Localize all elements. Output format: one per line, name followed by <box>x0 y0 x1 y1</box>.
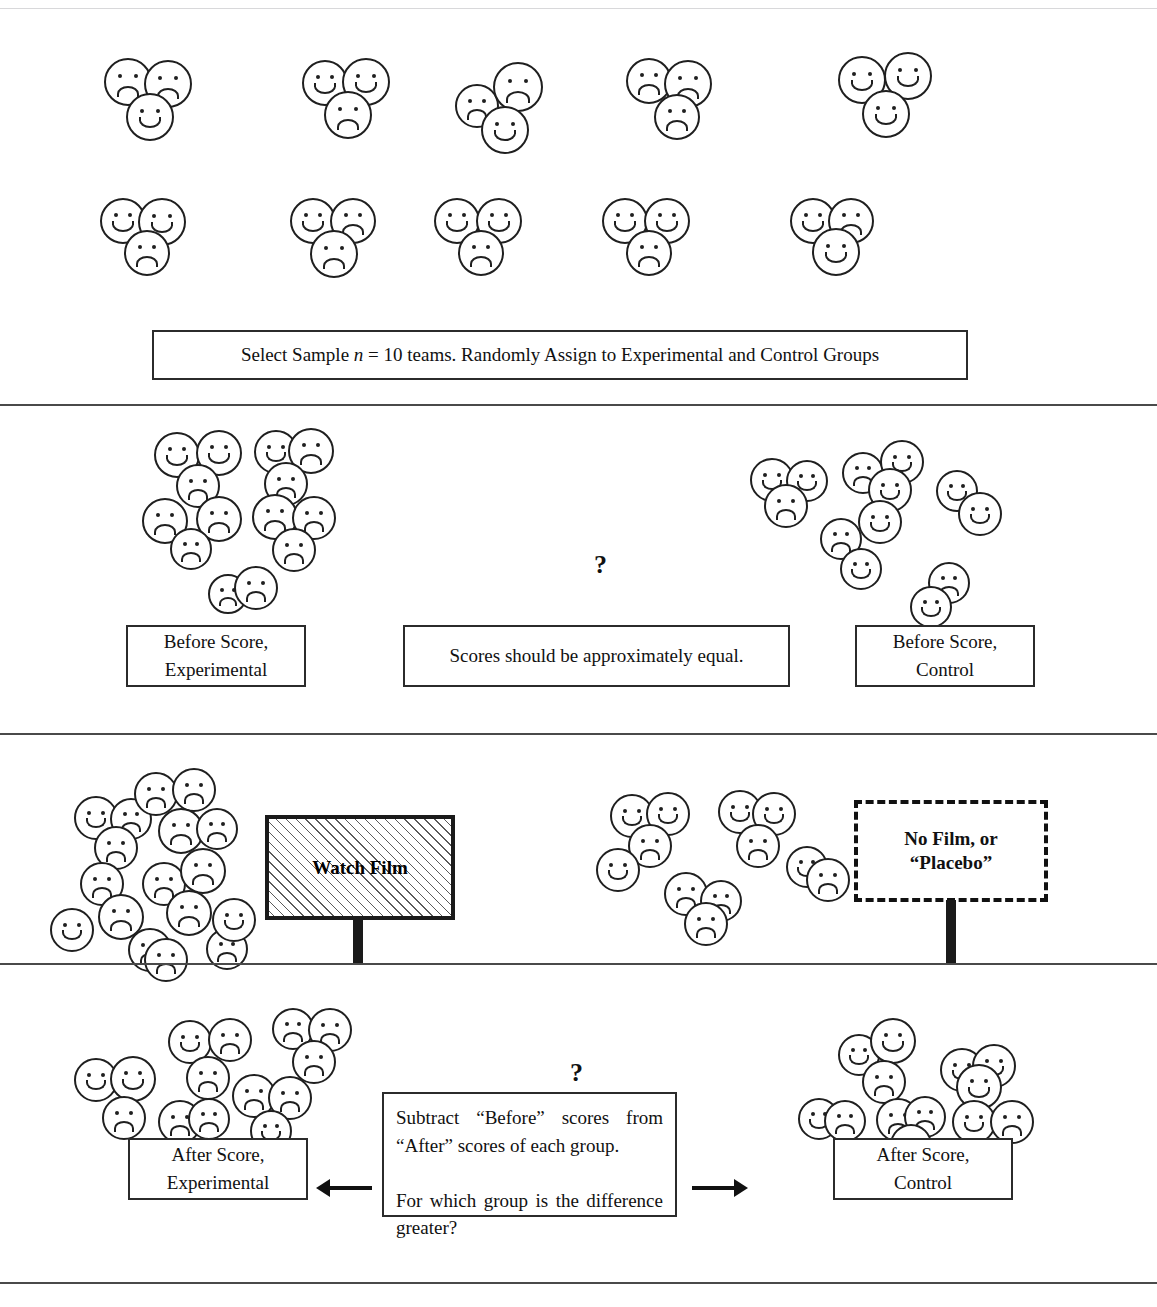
face-eye-right <box>170 513 174 517</box>
face-eye-left <box>183 542 187 546</box>
face-mouth <box>284 553 305 563</box>
face-eye-right <box>935 600 939 604</box>
face-mouth <box>875 114 898 125</box>
before-score-control-label: Before Score, Control <box>893 628 997 683</box>
face-mouth <box>849 1055 869 1065</box>
face-eye-right <box>129 1111 133 1115</box>
face-eye-right <box>156 109 160 113</box>
face-mouth <box>112 221 134 232</box>
face-eye-right <box>898 1033 902 1037</box>
arrow-left-icon <box>316 1179 330 1197</box>
happy-face-icon <box>858 500 902 544</box>
face-eye-right <box>186 823 190 827</box>
face-eye-right <box>77 923 81 927</box>
face-eye-left <box>811 1112 815 1116</box>
face-mouth <box>170 1125 191 1135</box>
face-eye-right <box>275 1124 279 1128</box>
face-eye-left <box>658 213 662 217</box>
face-eye-right <box>725 894 729 898</box>
happy-face-icon <box>958 492 1002 536</box>
face-mouth <box>117 86 140 97</box>
sad-face-icon <box>684 902 728 946</box>
face-eye-left <box>267 445 271 449</box>
before-score-experimental-label: Before Score, Experimental <box>164 628 268 683</box>
face-mouth <box>181 552 201 562</box>
face-eye-right <box>818 213 822 217</box>
sample-caption-box: Select Sample n = 10 teams. Randomly Ass… <box>152 330 968 380</box>
face-eye-right <box>128 213 132 217</box>
face-eye-left <box>855 466 859 470</box>
after-score-experimental-box: After Score, Experimental <box>128 1138 308 1200</box>
face-eye-right <box>914 68 918 72</box>
sad-face-icon <box>626 230 672 276</box>
sad-face-icon <box>493 62 543 112</box>
face-mouth <box>851 80 874 91</box>
face-eye-right <box>630 213 634 217</box>
face-eye-left <box>221 1033 225 1037</box>
face-eye-left <box>245 1089 249 1093</box>
face-eye-right <box>623 863 627 867</box>
face-eye-left <box>147 787 151 791</box>
face-eye-left <box>172 823 176 827</box>
face-eye-left <box>277 477 281 481</box>
face-mouth <box>110 920 132 931</box>
face-mouth <box>208 522 230 533</box>
face-eye-right <box>654 245 658 249</box>
face-mouth <box>198 1081 219 1091</box>
face-eye-left <box>155 877 159 881</box>
face-eye-left <box>609 863 613 867</box>
face-eye-right <box>777 473 781 477</box>
sad-face-icon <box>234 566 278 610</box>
face-eye-right <box>224 445 228 449</box>
face-eye-left <box>889 1113 893 1117</box>
face-mouth <box>146 797 167 807</box>
face-eye-left <box>678 76 682 80</box>
after-question-mark: ? <box>570 1058 583 1088</box>
after-instructions-text: Subtract “Before” scores from “After” sc… <box>396 1104 663 1242</box>
face-eye-left <box>1003 1115 1007 1119</box>
face-mouth <box>870 522 891 532</box>
face-eye-right <box>842 244 846 248</box>
face-mouth <box>208 453 230 464</box>
face-eye-right <box>174 76 178 80</box>
face-eye-left <box>219 942 223 946</box>
sad-face-icon <box>824 1100 866 1142</box>
face-eye-left <box>114 213 118 217</box>
face-eye-right <box>791 499 795 503</box>
watch-film-sign-post <box>353 918 363 963</box>
after-score-control-box: After Score, Control <box>833 1138 1013 1200</box>
face-mouth <box>280 1101 301 1111</box>
face-eye-left <box>837 1114 841 1118</box>
face-eye-left <box>884 1033 888 1037</box>
face-eye-right <box>138 1071 142 1075</box>
sad-face-icon <box>208 1018 252 1062</box>
face-eye-left <box>852 72 856 76</box>
face-eye-left <box>138 245 142 249</box>
face-eye-right <box>335 1023 339 1027</box>
face-eye-right <box>208 863 212 867</box>
face-eye-left <box>305 511 309 515</box>
face-eye-left <box>324 246 328 250</box>
face-eye-left <box>201 1112 205 1116</box>
arrow-left-shaft <box>330 1186 372 1190</box>
face-eye-left <box>209 822 213 826</box>
sad-face-icon <box>188 1098 230 1140</box>
face-eye-left <box>152 214 156 218</box>
before-score-control-box: Before Score, Control <box>855 625 1035 687</box>
face-eye-right <box>330 75 334 79</box>
face-mouth <box>488 221 510 232</box>
section-divider-4 <box>0 1282 1157 1284</box>
face-eye-left <box>842 213 846 217</box>
face-eye-left <box>321 1023 325 1027</box>
happy-face-icon <box>870 1018 916 1064</box>
face-eye-left <box>851 1048 855 1052</box>
face-eye-right <box>291 477 295 481</box>
face-eye-left <box>799 474 803 478</box>
happy-face-icon <box>862 90 910 138</box>
face-eye-left <box>853 562 857 566</box>
face-eye-left <box>777 499 781 503</box>
no-film-placebo-sign-post <box>946 900 956 963</box>
face-eye-right <box>134 74 138 78</box>
face-eye-left <box>338 107 342 111</box>
face-eye-left <box>765 807 769 811</box>
